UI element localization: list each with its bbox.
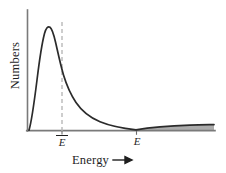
x-axis-label-group: Energy <box>72 153 109 168</box>
energy-distribution-curve <box>29 27 214 130</box>
tick-label-threshold-energy: E <box>131 136 143 147</box>
energy-distribution-figure: Numbers Energy E E <box>0 0 226 173</box>
tick-label-mean-energy: E <box>56 135 68 148</box>
x-axis-arrow-icon <box>113 157 132 164</box>
tick-label-mean-energy-symbol: E <box>59 136 66 148</box>
plot-area <box>0 0 226 173</box>
y-axis-label: Numbers <box>8 32 23 100</box>
x-axis-label: Energy <box>72 153 109 168</box>
